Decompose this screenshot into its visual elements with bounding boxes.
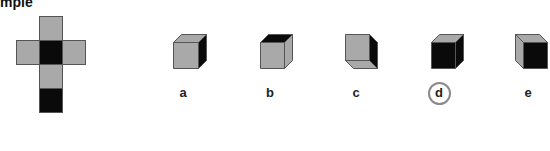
cube-c-bottom [346, 61, 378, 69]
cube-a-front [174, 43, 199, 69]
cube-d-front [432, 43, 456, 69]
net-face-lower [40, 65, 63, 89]
cube-c-front [346, 35, 370, 61]
net-face-bottom [40, 89, 63, 113]
cube-d-side [456, 35, 464, 69]
cube-a-side [199, 35, 207, 69]
cube-b-front [261, 43, 285, 69]
cube-b-top [261, 35, 293, 43]
cube-b-side [285, 35, 293, 69]
cube-e-front [524, 43, 548, 69]
cube-a-top [174, 35, 207, 43]
option-label-a: a [179, 85, 186, 100]
net-face-left [17, 41, 40, 65]
net-face-top [40, 17, 63, 41]
option-label-e: e [524, 85, 531, 100]
net-face-center [40, 41, 63, 65]
cube-e-left-side [516, 35, 524, 69]
option-label-c: c [352, 85, 359, 100]
option-label-b: b [266, 85, 274, 100]
cube-c-side [370, 35, 378, 69]
option-label-d: d [435, 85, 443, 100]
cube-d-top [432, 35, 464, 43]
cube-e-top [516, 35, 548, 43]
net-face-right [63, 41, 86, 65]
cube-net [0, 0, 120, 151]
